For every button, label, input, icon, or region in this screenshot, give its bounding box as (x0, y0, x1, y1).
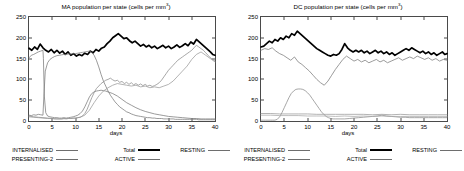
panel-ma-population: MA population per state (cells per mm3) … (0, 0, 232, 171)
legend-label: PRESENTING-2 (244, 155, 285, 163)
panel-title-ma: MA population per state (cells per mm3) (0, 2, 232, 10)
legend-swatch (288, 159, 310, 160)
ytick-label: 0 (23, 118, 26, 124)
legend-label: Total (123, 146, 135, 154)
figure-root: MA population per state (cells per mm3) … (0, 0, 464, 171)
legend-label: PRESENTING-2 (12, 155, 53, 163)
xtick-label: 20 (351, 124, 358, 130)
ytick-label: 250 (248, 14, 258, 20)
legend-swatch (138, 149, 160, 151)
xtick-label: 40 (444, 124, 451, 130)
ytick-label: 150 (248, 56, 258, 62)
xaxis-label-dc: days (232, 130, 464, 136)
legend-column: INTERNALISEDPRESENTING-2 (6, 146, 78, 163)
legend-entry: INTERNALISED (6, 146, 78, 154)
legend-swatch (56, 159, 78, 160)
ytick-label: 50 (251, 97, 258, 103)
legend-swatch (370, 159, 392, 160)
legend-swatch (56, 150, 78, 151)
xtick-label: 30 (165, 124, 172, 130)
panel-title-ma-tail: ) (168, 3, 170, 10)
legend-column: INTERNALISEDPRESENTING-2 (238, 146, 310, 163)
panel-title-dc: DC population per state (cells per mm3) (232, 2, 464, 10)
legend-swatch (288, 150, 310, 151)
ytick-label: 150 (16, 56, 26, 62)
panel-dc-population: DC population per state (cells per mm3) … (232, 0, 464, 171)
legend-label: ACTIVE (115, 155, 135, 163)
legend-column: RESTING (406, 146, 462, 154)
xtick-label: 25 (374, 124, 381, 130)
legend-entry: INTERNALISED (238, 146, 310, 154)
legend-swatch (370, 149, 392, 151)
xtick-label: 25 (142, 124, 149, 130)
ytick-label: 200 (16, 35, 26, 41)
legend-swatch (208, 150, 230, 151)
series-line (261, 48, 447, 85)
xtick-label: 30 (397, 124, 404, 130)
series-line (29, 51, 215, 120)
legend-swatch (138, 159, 160, 160)
series-line (261, 114, 447, 115)
legend-dc: INTERNALISEDPRESENTING-2TotalACTIVERESTI… (232, 146, 464, 166)
panel-title-dc-tail: ) (400, 3, 402, 10)
xtick-label: 35 (420, 124, 427, 130)
plot-area-dc: 0501001502002500510152025303540 (260, 16, 448, 122)
ytick-label: 250 (16, 14, 26, 20)
ytick-label: 100 (16, 76, 26, 82)
legend-swatch (440, 150, 462, 151)
legend-entry: PRESENTING-2 (238, 155, 310, 163)
legend-entry: ACTIVE (336, 155, 392, 163)
series-layer (29, 17, 215, 121)
legend-label: INTERNALISED (12, 146, 53, 154)
series-layer (261, 17, 447, 121)
legend-label: INTERNALISED (244, 146, 285, 154)
series-line (29, 45, 215, 119)
legend-label: ACTIVE (347, 155, 367, 163)
xtick-label: 0 (259, 124, 262, 130)
legend-column: TotalACTIVE (104, 146, 160, 163)
legend-label: RESTING (412, 146, 437, 154)
legend-entry: RESTING (174, 146, 230, 154)
legend-entry: ACTIVE (104, 155, 160, 163)
xtick-label: 15 (327, 124, 334, 130)
xtick-label: 10 (304, 124, 311, 130)
legend-label: RESTING (180, 146, 205, 154)
xtick-label: 15 (95, 124, 102, 130)
xtick-label: 5 (283, 124, 286, 130)
legend-label: Total (355, 146, 367, 154)
xtick-label: 35 (188, 124, 195, 130)
legend-entry: RESTING (406, 146, 462, 154)
xtick-label: 5 (51, 124, 54, 130)
series-line (29, 34, 215, 56)
legend-entry: PRESENTING-2 (6, 155, 78, 163)
series-line (261, 115, 447, 116)
ytick-label: 50 (19, 97, 26, 103)
panel-title-dc-text: DC population per state (cells per mm (293, 3, 398, 10)
xtick-label: 40 (212, 124, 219, 130)
legend-entry: Total (104, 146, 160, 154)
xaxis-label-ma: days (0, 130, 232, 136)
plot-area-ma: 0501001502002500510152025303540 (28, 16, 216, 122)
legend-column: RESTING (174, 146, 230, 154)
legend-ma: INTERNALISEDPRESENTING-2TotalACTIVERESTI… (0, 146, 232, 166)
legend-entry: Total (336, 146, 392, 154)
xtick-label: 0 (27, 124, 30, 130)
legend-column: TotalACTIVE (336, 146, 392, 163)
xtick-label: 20 (119, 124, 126, 130)
series-line (261, 31, 447, 56)
ytick-label: 0 (255, 118, 258, 124)
ytick-label: 200 (248, 35, 258, 41)
panel-title-ma-text: MA population per state (cells per mm (61, 3, 166, 10)
ytick-label: 100 (248, 76, 258, 82)
xtick-label: 10 (72, 124, 79, 130)
